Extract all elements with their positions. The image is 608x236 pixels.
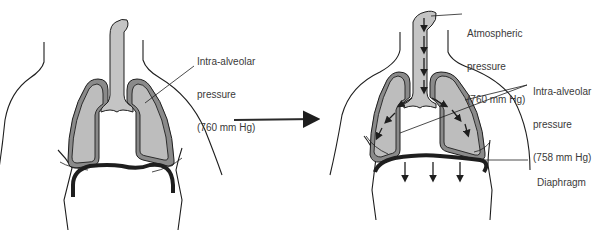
diaphragm-label: Diaphragm	[537, 155, 586, 210]
diaphragm	[375, 155, 486, 172]
left-lung	[68, 79, 108, 168]
right-lung	[127, 79, 174, 166]
atmospheric-pressure-label: Atmospheric pressure (760 mm Hg)	[467, 6, 525, 127]
intra-alveolar-pressure-label-before: Intra-alveolar pressure (760 mm Hg)	[197, 34, 255, 155]
diaphragm	[73, 165, 173, 197]
diaphragm-movement-arrows	[405, 162, 460, 180]
left-lung	[370, 72, 410, 162]
lung-pressure-diagram: Intra-alveolar pressure (760 mm Hg) Atmo…	[0, 0, 608, 236]
label-leader-line	[145, 66, 194, 103]
panel-before-inspiration	[0, 19, 222, 230]
